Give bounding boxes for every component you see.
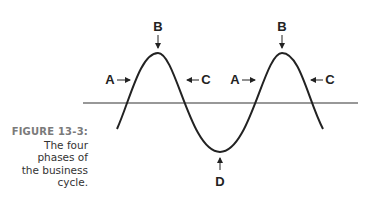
label-c-contraction-2: C [311,72,335,87]
svg-text:B: B [277,19,286,34]
svg-text:B: B [153,19,162,34]
label-b-peak-2: B [277,19,286,48]
label-c-contraction-1: C [187,72,211,87]
svg-text:A: A [105,72,115,87]
label-a-expansion-1: A [105,72,130,87]
label-a-expansion-2: A [230,72,255,87]
label-b-peak-1: B [153,19,162,48]
business-cycle-diagram: B B A C A C D [0,0,368,201]
svg-text:A: A [230,72,240,87]
svg-text:D: D [215,174,224,189]
label-d-trough: D [215,158,224,189]
svg-text:C: C [201,72,211,87]
svg-text:C: C [325,72,335,87]
